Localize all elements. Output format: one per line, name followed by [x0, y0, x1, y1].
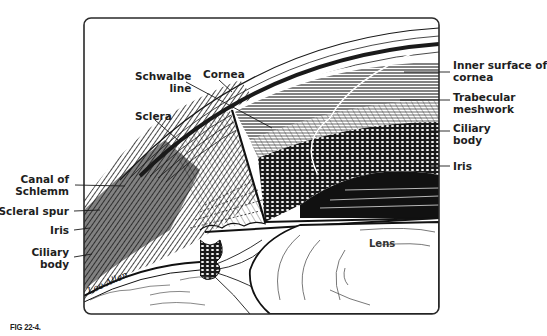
label-iris-left: Iris: [50, 224, 69, 236]
label-trabecular-meshwork: Trabecular meshwork: [453, 91, 515, 115]
label-ciliary-body-left: Ciliary body: [31, 246, 69, 270]
label-inner-surface-of-cornea: Inner surface of cornea: [453, 59, 547, 83]
label-cornea: Cornea: [203, 68, 245, 80]
figure-caption: FIG 22-4.: [10, 322, 41, 332]
lens-region: [250, 222, 439, 314]
label-scleral-spur: Scleral spur: [0, 205, 69, 217]
label-canal-of-schlemm: Canal of Schlemm: [15, 173, 69, 197]
label-schwalbe-line: Schwalbe line: [135, 70, 191, 94]
label-ciliary-body-right: Ciliary body: [453, 122, 491, 146]
label-lens: Lens: [369, 238, 395, 249]
label-sclera: Sclera: [135, 110, 172, 122]
label-iris-right: Iris: [453, 160, 472, 172]
